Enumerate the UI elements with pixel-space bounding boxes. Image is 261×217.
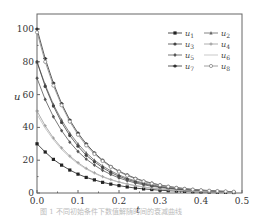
series-u2 [35,60,235,194]
legend-item-u7: u7 [168,62,194,72]
legend-item-u5: u5 [168,51,194,61]
legend-item-u3: u3 [168,40,194,50]
x-tick-label: 0.3 [153,196,168,206]
series-group [35,27,236,194]
x-tick-label: 0.5 [235,196,250,206]
x-tick-label: 0.2 [112,196,126,206]
legend-item-u6: u6 [204,51,230,61]
svg-text:u1: u1 [185,29,194,39]
series-u7 [35,27,236,193]
svg-text:u2: u2 [221,29,230,39]
y-tick-label: 80 [23,57,35,67]
legend-item-u1: u1 [168,29,194,39]
legend-item-u4: u4 [204,40,230,50]
svg-text:u6: u6 [221,51,230,61]
legend: u1u2u3u4u5u6u7u8 [168,29,230,72]
x-tick-label: 0.4 [194,196,209,206]
svg-text:u8: u8 [221,62,230,72]
y-tick-label: 40 [23,122,35,132]
svg-text:u7: u7 [185,62,194,72]
svg-text:u5: u5 [185,51,194,61]
series-u3 [35,60,235,193]
y-tick-label: 60 [23,90,35,100]
svg-text:u4: u4 [221,40,230,50]
x-tick-label: 0.1 [71,196,85,206]
y-tick-label: 20 [23,155,35,165]
line-chart: 020406080100 0.00.10.20.30.40.5 u t u1u2… [0,0,261,217]
legend-item-u8: u8 [204,62,230,72]
figure-caption: 图 1 不同初始条件下数值解随时间的衰减曲线 [40,206,260,216]
y-axis-label: u [14,91,20,102]
plot-frame [37,14,242,193]
svg-text:u3: u3 [185,40,194,50]
y-tick-label: 100 [17,24,34,34]
series-u5 [35,76,235,194]
legend-item-u2: u2 [204,29,230,39]
x-tick-label: 0.0 [30,196,45,206]
